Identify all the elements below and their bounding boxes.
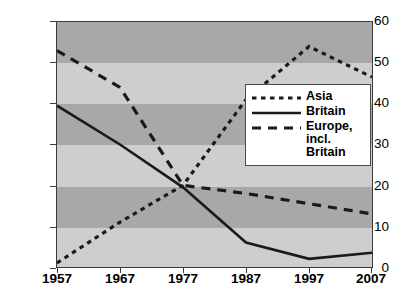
legend-item-asia: Asia xyxy=(251,90,365,104)
x-axis-tick-label: 1997 xyxy=(281,272,337,286)
x-axis-tick-label: 1977 xyxy=(155,272,211,286)
legend-label-europe-line2: incl. Britain xyxy=(306,132,346,159)
x-axis-tick-label: 1957 xyxy=(29,272,85,286)
legend-label-asia: Asia xyxy=(303,90,332,103)
legend-swatch-dashed-icon xyxy=(251,120,303,134)
legend-label-europe-line1: Europe, xyxy=(306,119,353,133)
legend-item-britain: Britain xyxy=(251,105,365,119)
legend-swatch-solid-icon xyxy=(251,105,303,119)
x-axis-tick-label: 1987 xyxy=(218,272,274,286)
legend-label-britain: Britain xyxy=(303,105,346,118)
y-axis-tick-mark xyxy=(50,268,56,269)
legend-item-europe: Europe,incl. Britain xyxy=(251,120,365,159)
x-axis-tick-label: 2007 xyxy=(343,272,394,286)
legend-swatch-dotted-icon xyxy=(251,90,303,104)
legend-label-europe: Europe,incl. Britain xyxy=(303,120,365,159)
x-axis-tick-label: 1967 xyxy=(92,272,148,286)
legend: Asia Britain Europe,incl. Britain xyxy=(245,84,371,166)
